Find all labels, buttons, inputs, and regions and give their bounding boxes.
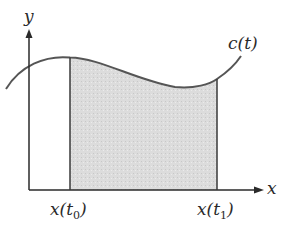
left-bound-label-main: x(t xyxy=(50,199,73,219)
left-bound-label: x(t0) xyxy=(50,199,87,222)
x-axis-label: x xyxy=(267,178,277,198)
y-axis-label: y xyxy=(23,6,34,26)
y-axis-arrow-icon xyxy=(26,29,33,38)
right-bound-label-sub: 1 xyxy=(220,209,227,222)
right-bound-label: x(t1) xyxy=(197,199,234,222)
left-bound-label-sub: 0 xyxy=(73,209,80,222)
right-bound-label-close: ) xyxy=(226,199,234,219)
x-axis-arrow-icon xyxy=(254,187,264,194)
area-under-curve-diagram: y x c(t) x(t0) x(t1) xyxy=(0,0,296,227)
left-bound-label-close: ) xyxy=(79,199,87,219)
right-bound-label-main: x(t xyxy=(197,199,220,219)
shaded-area xyxy=(70,58,217,191)
curve-label: c(t) xyxy=(228,33,258,53)
